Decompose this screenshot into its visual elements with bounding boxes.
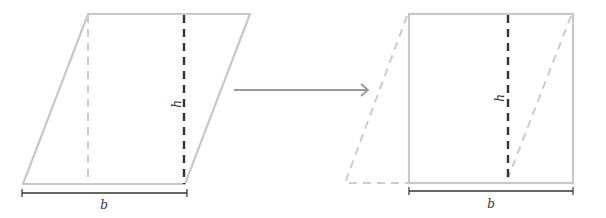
arrow-icon	[234, 84, 368, 96]
base-label: b	[487, 197, 495, 211]
base-label: b	[100, 198, 108, 212]
right-figure: h b	[345, 14, 573, 211]
height-label: h	[170, 100, 184, 108]
height-label: h	[493, 94, 507, 102]
moved-triangle-dashed	[345, 16, 409, 183]
base-dimension-line	[409, 187, 573, 195]
rectangle-outline	[409, 14, 573, 183]
diagram-canvas: h b h b	[0, 0, 606, 218]
left-figure: h b	[22, 14, 250, 212]
base-dimension-line	[22, 189, 187, 197]
parallelogram-outline	[23, 14, 250, 184]
cut-triangle-dashed	[508, 16, 571, 178]
